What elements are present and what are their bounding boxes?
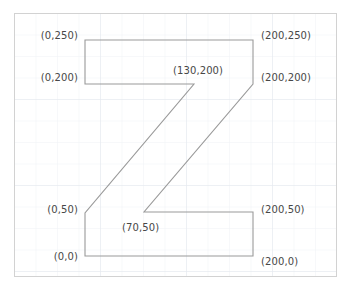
vertex-label-130-200: (130,200) <box>173 65 223 76</box>
vertex-label-200-50: (200,50) <box>261 204 305 215</box>
vertex-label-0-50: (0,50) <box>47 204 78 215</box>
vertex-label-0-250: (0,250) <box>41 30 78 41</box>
vertex-label-70-50: (70,50) <box>122 222 159 233</box>
vertex-label-200-250: (200,250) <box>261 30 311 41</box>
vertex-label-0-0: (0,0) <box>54 251 78 262</box>
vertex-label-0-200: (0,200) <box>41 72 78 83</box>
coordinate-diagram: (0,250) (200,250) (0,200) (130,200) (200… <box>0 0 352 289</box>
major-gridlines <box>14 13 337 277</box>
plot-canvas <box>0 0 352 289</box>
vertex-label-200-0: (200,0) <box>261 256 298 267</box>
vertex-label-200-200: (200,200) <box>261 72 311 83</box>
